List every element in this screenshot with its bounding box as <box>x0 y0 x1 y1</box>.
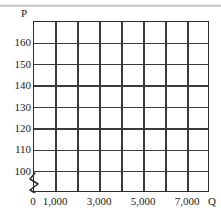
y-tick-label: 120 <box>1 122 31 133</box>
x-tick-label: 1,000 <box>43 196 68 207</box>
x-tick-label: 7,000 <box>175 196 200 207</box>
axis-break-zigzag-icon <box>26 172 42 193</box>
price-quantity-grid-chart: P Q 100110120130140150160 01,0003,0005,0… <box>0 0 221 221</box>
x-tick-label: 5,000 <box>131 196 156 207</box>
gridline-horizontal <box>34 128 208 129</box>
x-axis-label-q: Q <box>208 196 216 207</box>
gridline-horizontal <box>34 85 208 86</box>
y-tick-label: 130 <box>1 101 31 112</box>
gridline-horizontal <box>34 64 208 65</box>
y-tick-label: 160 <box>1 37 31 48</box>
gridline-horizontal <box>34 43 208 44</box>
gridline-horizontal <box>34 171 208 172</box>
y-tick-label: 140 <box>1 80 31 91</box>
x-tick-label: 0 <box>30 196 36 207</box>
y-tick-label: 150 <box>1 58 31 69</box>
gridline-horizontal <box>34 107 208 108</box>
y-tick-label: 110 <box>1 144 31 155</box>
x-tick-label: 3,000 <box>87 196 112 207</box>
plot-area[interactable] <box>33 21 209 192</box>
gridline-horizontal <box>34 150 208 151</box>
